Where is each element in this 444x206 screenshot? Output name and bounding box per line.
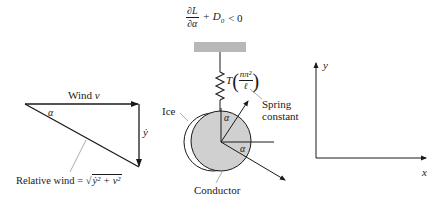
derivative-denominator: ∂α <box>187 18 197 29</box>
fraction-numerator: nπ² <box>239 70 253 81</box>
spring-label-line2: constant <box>262 110 299 122</box>
spring-constant-label: Spring constant <box>262 98 299 122</box>
velocity-triangle <box>25 104 139 172</box>
ydot-label: ẏ <box>143 127 148 138</box>
partial-derivative: ∂L ∂α <box>186 6 199 29</box>
derivative-numerator: ∂L <box>186 6 199 18</box>
relative-wind-leader <box>70 140 86 172</box>
paren-close: ) <box>253 71 260 91</box>
sqrt-sign: √ <box>86 175 92 186</box>
coordinate-axes <box>316 63 426 158</box>
conductor-angle-top: α <box>224 113 229 123</box>
triangle-angle-label: α <box>48 108 53 118</box>
galloping-condition: ∂L ∂α + D0 < 0 <box>186 6 243 29</box>
x-axis-label: x <box>422 167 427 178</box>
spring-label-line1: Spring <box>262 98 299 110</box>
ice-label: Ice <box>162 106 175 117</box>
inequality: < 0 <box>228 12 242 24</box>
ice-leader <box>180 113 188 121</box>
sqrt-content: ẏ² + v² <box>92 174 122 186</box>
wind-label: Wind v <box>68 90 100 101</box>
tension-label: T ( nπ² ℓ ) <box>226 70 259 91</box>
spring-zigzag <box>216 72 224 100</box>
fraction-denominator: ℓ <box>244 81 248 91</box>
conductor-leader <box>216 172 222 183</box>
relative-wind-label: Relative wind = √ẏ² + v² <box>16 176 122 187</box>
relative-wind-text: Relative wind = <box>16 175 86 186</box>
spring-fraction: nπ² ℓ <box>239 70 253 91</box>
fixed-support <box>194 42 246 52</box>
conductor-label: Conductor <box>194 185 240 196</box>
drag-term: + D0 <box>203 10 225 25</box>
wind-symbol: v <box>95 89 100 101</box>
wind-label-text: Wind <box>68 89 92 101</box>
y-axis-label: y <box>323 60 328 71</box>
paren-open: ( <box>232 71 239 91</box>
relative-wind-line <box>25 104 139 167</box>
conductor-angle-right: α <box>240 144 245 154</box>
drag-term-text: + D <box>203 10 221 22</box>
drag-subscript: 0 <box>221 17 225 25</box>
